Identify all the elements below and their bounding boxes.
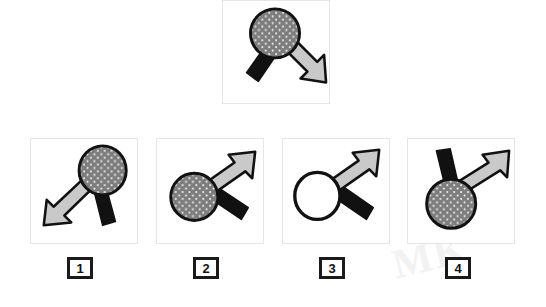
option-panel-3[interactable]: [282, 138, 390, 244]
prompt-figure: [223, 1, 329, 103]
option-panel-1[interactable]: [30, 138, 138, 244]
white-circle: [295, 172, 340, 219]
option-panel-4[interactable]: [407, 138, 515, 244]
option-4-figure: [408, 139, 514, 243]
option-3-figure: [283, 139, 389, 243]
option-label-4[interactable]: 4: [445, 257, 471, 279]
black-bar: [436, 149, 458, 183]
puzzle-root: MK: [0, 0, 546, 307]
option-2-figure: [157, 139, 263, 243]
prompt-panel: [222, 0, 330, 104]
stippled-circle: [250, 9, 299, 58]
option-panel-2[interactable]: [156, 138, 264, 244]
stippled-circle: [171, 173, 218, 220]
stippled-circle: [79, 146, 126, 195]
option-1-figure: [31, 139, 137, 243]
stippled-circle: [427, 179, 476, 228]
option-label-3[interactable]: 3: [319, 257, 345, 279]
option-label-1[interactable]: 1: [67, 257, 93, 279]
option-label-2[interactable]: 2: [193, 257, 219, 279]
